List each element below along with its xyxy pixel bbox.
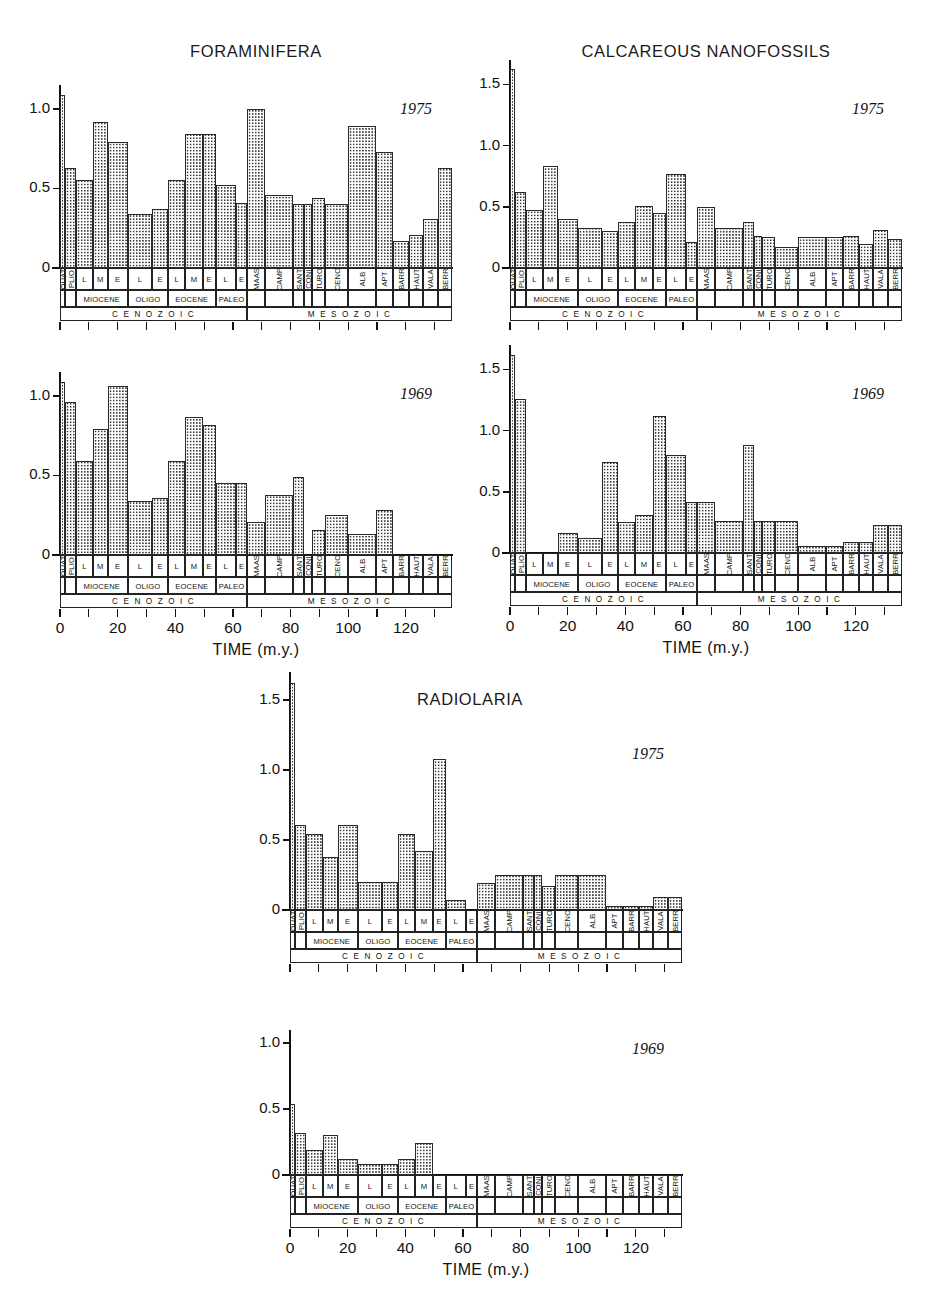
x-tick-mark-radiolaria-1969-13: [664, 1229, 665, 1237]
bar-radiolaria-1969-M: [415, 1143, 432, 1175]
bar-calcareous-nanofossils-1975-E: [653, 213, 666, 268]
bar-calcareous-nanofossils-1969-HAUT: [859, 542, 873, 553]
strat-stage-ext-radiolaria-1969-TURO: [542, 1197, 555, 1214]
strat-epoch-calcareous-nanofossils-1975-CAMP-13: CAMP: [715, 268, 744, 290]
strat-epoch-label: SANT: [294, 556, 303, 577]
x-tick-mark-calcareous-nanofossils-1975-7: [711, 322, 712, 330]
x-axis-title-foraminifera-1969: TIME (m.y.): [136, 641, 376, 659]
y-tick-label-calcareous-nanofossils-1969-0: 0: [448, 543, 500, 560]
x-tick-label-radiolaria-1969-12: 120: [606, 1239, 666, 1257]
bar-foraminifera-1969-SANT: [293, 477, 303, 555]
strat-epoch-foraminifera-1969-CONI-15: CONI: [304, 555, 313, 577]
bar-foraminifera-1975-PLIO: [65, 168, 76, 268]
strat-stage-ext-radiolaria-1975-ALB: [578, 932, 605, 949]
strat-epoch-calcareous-nanofossils-1975-BARR-20: BARR: [843, 268, 859, 290]
strat-epoch-label: E: [158, 562, 163, 571]
x-tick-mark-calcareous-nanofossils-1975-9: [769, 322, 770, 330]
strat-epoch-radiolaria-1969-SANT-14: SANT: [523, 1175, 533, 1197]
strat-epoch-radiolaria-1969-CONI-15: CONI: [534, 1175, 543, 1197]
bar-calcareous-nanofossils-1975-E: [686, 242, 698, 268]
strat-period-label: PALEO: [669, 579, 695, 588]
strat-epoch-foraminifera-1969-E-9: E: [203, 555, 216, 577]
strat-epoch-radiolaria-1969-PLIO-1: PLIO: [295, 1175, 306, 1197]
x-tick-label-foraminifera-1969-0: 0: [30, 619, 90, 637]
panel-title-calcareous-nanofossils-1975: CALCAREOUS NANOFOSSILS: [506, 42, 906, 61]
strat-epoch-label: E: [158, 275, 163, 284]
strat-epoch-foraminifera-1969-CENO-17: CENO: [325, 555, 348, 577]
strat-epoch-radiolaria-1969-M-3: M: [323, 1175, 337, 1197]
bar-radiolaria-1975-L: [306, 834, 323, 910]
x-tick-mark-calcareous-nanofossils-1975-10: [798, 322, 799, 330]
strat-stage-ext-radiolaria-1969-BERR: [668, 1197, 682, 1214]
strat-stage-ext-radiolaria-1975-CENO: [555, 932, 578, 949]
x-tick-mark-radiolaria-1975-11: [606, 964, 607, 972]
strat-epoch-label: CONI: [534, 911, 543, 931]
strat-epoch-label: TURO: [314, 555, 323, 577]
bar-radiolaria-1975-E: [433, 759, 446, 910]
strat-era-label: C E N O Z O I C: [112, 597, 195, 606]
strat-epoch-calcareous-nanofossils-1969-L-10: L: [666, 553, 686, 575]
bar-radiolaria-1969-L: [306, 1150, 323, 1175]
strat-period-label: PALEO: [449, 1201, 475, 1210]
strat-epoch-calcareous-nanofossils-1969-CAMP-13: CAMP: [715, 553, 744, 575]
y-tick-label-radiolaria-1969-1: 0.5: [228, 1099, 280, 1116]
strat-epoch-label: E: [437, 917, 442, 926]
strat-period-label: PALEO: [449, 936, 475, 945]
strat-epoch-label: CONI: [304, 556, 313, 576]
x-tick-mark-calcareous-nanofossils-1969-5: [654, 607, 655, 615]
x-tick-label-calcareous-nanofossils-1969-8: 80: [711, 617, 771, 635]
strat-epoch-calcareous-nanofossils-1975-CONI-15: CONI: [754, 268, 763, 290]
panel-title-foraminifera-1975: FORAMINIFERA: [56, 42, 456, 61]
strat-epoch-label: L: [454, 917, 458, 926]
strat-epoch-radiolaria-1975-CAMP-13: CAMP: [495, 910, 524, 932]
x-tick-label-calcareous-nanofossils-1969-12: 120: [826, 617, 886, 635]
x-tick-mark-radiolaria-1969-12: [635, 1229, 636, 1237]
strat-epoch-foraminifera-1969-SANT-14: SANT: [293, 555, 303, 577]
strat-epoch-foraminifera-1969-PLIO-1: PLIO: [65, 555, 76, 577]
x-tick-label-foraminifera-1969-12: 120: [376, 619, 436, 637]
bar-calcareous-nanofossils-1975-BERR: [888, 239, 902, 268]
strat-epoch-label: L: [368, 917, 372, 926]
strat-stage-ext-calcareous-nanofossils-1975-CONI: [754, 290, 763, 307]
strat-epoch-label: ALB: [357, 272, 366, 287]
strat-epoch-foraminifera-1969-L-5: L: [128, 555, 153, 577]
strat-epoch-label: MAAS: [251, 555, 260, 577]
x-tick-mark-foraminifera-1975-10: [348, 322, 349, 330]
strat-epoch-foraminifera-1975-HAUT-21: HAUT: [409, 268, 423, 290]
strat-epoch-radiolaria-1975-APT-19: APT: [606, 910, 623, 932]
strat-epoch-calcareous-nanofossils-1975-M-8: M: [635, 268, 652, 290]
bar-radiolaria-1969-E: [338, 1159, 358, 1175]
strat-epoch-foraminifera-1969-MAAS-12: MAAS: [247, 555, 264, 577]
strat-stage-ext-radiolaria-1969-BARR: [623, 1197, 639, 1214]
strat-epoch-label: E: [345, 917, 350, 926]
strat-epoch-label: L: [532, 275, 536, 284]
strat-epoch-label: M: [327, 917, 333, 926]
strat-stage-ext-calcareous-nanofossils-1975-CAMP: [715, 290, 744, 307]
strat-period-calcareous-nanofossils-1969-PALEO: PALEO: [666, 575, 698, 592]
x-tick-mark-foraminifera-1975-11: [376, 322, 377, 330]
year-label-calcareous-nanofossils-1969: 1969: [852, 385, 884, 403]
bar-radiolaria-1975-TURO: [542, 886, 555, 910]
strat-epoch-foraminifera-1975-L-10: L: [216, 268, 236, 290]
strat-period-calcareous-nanofossils-1969-OLIGO: OLIGO: [578, 575, 618, 592]
x-tick-mark-foraminifera-1975-5: [204, 322, 205, 330]
strat-epoch-radiolaria-1969-E-9: E: [433, 1175, 446, 1197]
bar-calcareous-nanofossils-1975-M: [543, 166, 557, 268]
x-tick-mark-radiolaria-1975-0: [289, 964, 290, 972]
strat-stage-ext-calcareous-nanofossils-1975-CENO: [775, 290, 798, 307]
bar-foraminifera-1969-M: [185, 417, 202, 555]
strat-epoch-calcareous-nanofossils-1975-E-9: E: [653, 268, 666, 290]
bar-radiolaria-1969-E: [382, 1164, 398, 1175]
bar-calcareous-nanofossils-1969-E: [602, 462, 618, 553]
strat-stage-ext-foraminifera-1969-APT: [376, 577, 393, 594]
bar-foraminifera-1969-E: [108, 386, 128, 555]
strat-stage-ext-foraminifera-1975-BERR: [438, 290, 452, 307]
strat-epoch-label: M: [327, 1182, 333, 1191]
bar-foraminifera-1975-HAUT: [409, 235, 423, 268]
x-tick-mark-foraminifera-1969-5: [204, 609, 205, 617]
strat-era-label: M E S O Z O I C: [308, 310, 392, 319]
strat-epoch-label: PLIO: [516, 270, 525, 288]
strat-epoch-label: BERR: [670, 910, 679, 932]
strat-epoch-calcareous-nanofossils-1969-CENO-17: CENO: [775, 553, 798, 575]
strat-epoch-foraminifera-1975-TURO-16: TURO: [312, 268, 325, 290]
